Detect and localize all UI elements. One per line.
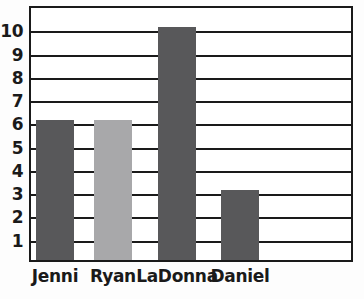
plot-area xyxy=(29,6,353,262)
x-tick-label-ryan: Ryan xyxy=(90,266,136,286)
y-tick-label-7: 7 xyxy=(12,93,23,110)
y-tick-label-8: 8 xyxy=(12,69,23,86)
y-tick-label-1: 1 xyxy=(12,232,23,249)
x-axis-category-labels: JenniRyanLaDonnaDaniel xyxy=(0,266,364,296)
bar-chart: 12345678910 JenniRyanLaDonnaDaniel xyxy=(0,0,364,299)
y-axis-tick-labels: 12345678910 xyxy=(0,0,27,299)
bars-layer xyxy=(31,8,351,260)
y-tick-label-4: 4 xyxy=(12,162,23,179)
bar-ladonna xyxy=(158,27,196,260)
x-tick-label-jenni: Jenni xyxy=(32,266,78,286)
y-tick-label-6: 6 xyxy=(12,116,23,133)
x-tick-label-daniel: Daniel xyxy=(210,266,269,286)
bar-jenni xyxy=(36,120,74,260)
bar-daniel xyxy=(221,190,259,260)
y-tick-label-3: 3 xyxy=(12,186,23,203)
y-tick-label-10: 10 xyxy=(0,23,23,40)
y-tick-label-2: 2 xyxy=(12,209,23,226)
x-tick-label-ladonna: LaDonna xyxy=(136,266,218,286)
bar-ryan xyxy=(94,120,132,260)
y-tick-label-9: 9 xyxy=(12,46,23,63)
y-tick-label-5: 5 xyxy=(12,139,23,156)
